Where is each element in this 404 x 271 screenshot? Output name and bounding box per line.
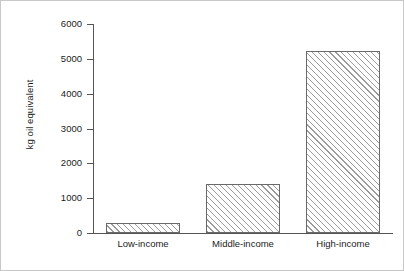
- bar-series: [93, 24, 393, 233]
- y-axis-label: kg oil equivalent: [24, 35, 35, 195]
- y-axis-tick-label: 4000: [42, 89, 82, 99]
- y-axis-tick-label: 5000: [42, 54, 82, 64]
- y-axis-tick-label: 3000: [42, 124, 82, 134]
- y-axis-tick-label: 6000: [42, 19, 82, 29]
- y-axis-tick-label: 0: [42, 228, 82, 238]
- y-axis-tick-labels: 0100020003000400050006000: [42, 1, 82, 271]
- x-axis-tick-label: High-income: [316, 238, 369, 249]
- x-axis-line: [93, 233, 393, 234]
- bar: [106, 223, 180, 233]
- bar: [306, 51, 380, 233]
- chart-figure: kg oil equivalent 0100020003000400050006…: [0, 0, 404, 271]
- bar: [206, 184, 280, 233]
- y-axis-tick-label: 2000: [42, 159, 82, 169]
- plot-area: kg oil equivalent 0100020003000400050006…: [1, 1, 404, 271]
- y-axis-tick-label: 1000: [42, 193, 82, 203]
- x-axis-tick-label: Low-income: [117, 238, 168, 249]
- x-axis-tick-labels: Low-incomeMiddle-incomeHigh-income: [93, 238, 393, 258]
- x-axis-tick-label: Middle-income: [212, 238, 274, 249]
